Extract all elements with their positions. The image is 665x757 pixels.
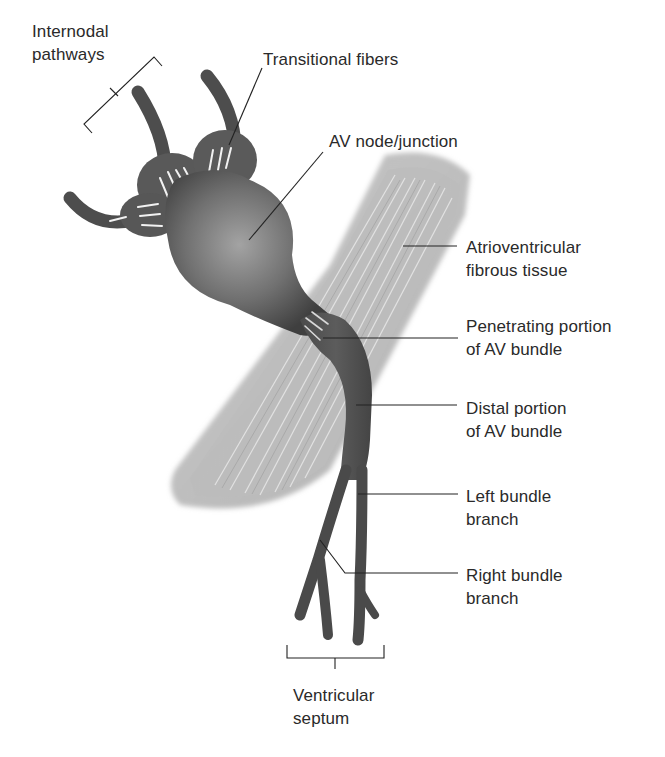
label-text: Right bundle <box>466 564 563 587</box>
label-text: AV node/junction <box>329 130 458 153</box>
label-transitional-fibers: Transitional fibers <box>263 48 398 71</box>
label-left-bundle-branch: Left bundle branch <box>466 485 551 531</box>
label-text: pathways <box>32 43 109 66</box>
label-text: Distal portion <box>466 397 567 420</box>
label-ventricular-septum: Ventricular septum <box>293 684 374 730</box>
label-internodal-pathways: Internodal pathways <box>32 20 109 66</box>
label-text: branch <box>466 587 563 610</box>
label-right-bundle-branch: Right bundle branch <box>466 564 563 610</box>
label-text: Penetrating portion <box>466 315 612 338</box>
bundle-branches <box>300 470 375 640</box>
anatomy-illustration <box>0 0 665 757</box>
label-text: fibrous tissue <box>466 259 581 282</box>
label-distal-portion: Distal portion of AV bundle <box>466 397 567 443</box>
label-text: branch <box>466 508 551 531</box>
label-text: Ventricular <box>293 684 374 707</box>
label-text: of AV bundle <box>466 338 612 361</box>
label-penetrating-portion: Penetrating portion of AV bundle <box>466 315 612 361</box>
label-atrioventricular-fibrous-tissue: Atrioventricular fibrous tissue <box>466 236 581 282</box>
label-text: Left bundle <box>466 485 551 508</box>
label-av-node-junction: AV node/junction <box>329 130 458 153</box>
av-node <box>165 170 330 336</box>
conduction-system-diagram: Internodal pathways Transitional fibers … <box>0 0 665 757</box>
label-text: septum <box>293 707 374 730</box>
label-text: Transitional fibers <box>263 48 398 71</box>
label-text: of AV bundle <box>466 420 567 443</box>
label-text: Atrioventricular <box>466 236 581 259</box>
label-text: Internodal <box>32 20 109 43</box>
